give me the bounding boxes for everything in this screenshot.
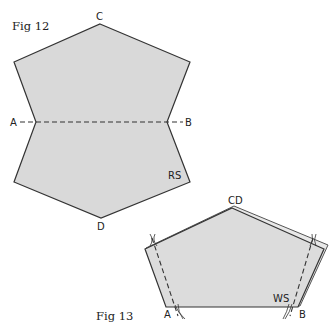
fig13-label-b: B (299, 309, 306, 320)
fig13-label-cd: CD (228, 195, 243, 206)
fig12-shape (14, 24, 190, 218)
fig12-label-b: B (185, 117, 192, 128)
fig12-label-c: C (96, 11, 103, 22)
fig13-label-a: A (164, 309, 171, 320)
diagram-canvas: Fig 12 C A B D RS Fig 13 CD A B WS (0, 0, 334, 330)
fig13-label-ws: WS (273, 293, 289, 304)
fig13-caption: Fig 13 (96, 309, 133, 323)
fig12-label-d: D (97, 221, 105, 232)
fig12-label-rs: RS (168, 170, 181, 181)
fig12-caption: Fig 12 (12, 19, 49, 33)
figure-12: Fig 12 C A B D RS (10, 11, 192, 232)
figure-13: Fig 13 CD A B WS (96, 195, 328, 323)
fig12-label-a: A (10, 117, 17, 128)
